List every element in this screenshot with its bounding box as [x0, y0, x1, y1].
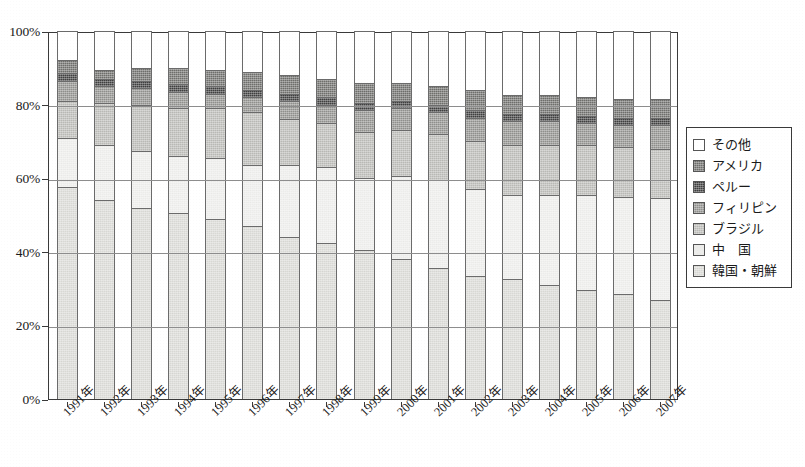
bar-segment-その他	[651, 31, 670, 99]
bar-segment-中 国	[577, 195, 596, 291]
bar-segment-アメリカ	[429, 86, 448, 104]
legend-item-label: その他	[712, 138, 751, 151]
y-axis-tick-label: 60%	[0, 172, 40, 186]
legend-item-ブラジル[interactable]: ブラジル	[693, 218, 786, 239]
bar-segment-ブラジル	[614, 147, 633, 197]
bar-segment-フィリピン	[317, 105, 336, 123]
legend-item-label: ブラジル	[712, 222, 764, 235]
y-axis-tick-label: 80%	[0, 99, 40, 113]
bar-2005年[interactable]	[576, 31, 597, 399]
y-axis-tick-label: 100%	[0, 25, 40, 39]
gridline	[49, 327, 677, 328]
bar-segment-ブラジル	[540, 145, 559, 195]
bar-segment-中 国	[95, 145, 114, 200]
legend-item-label: ペルー	[712, 180, 751, 193]
bar-segment-ペルー	[614, 118, 633, 125]
bar-1993年[interactable]	[131, 31, 152, 399]
legend-item-label: アメリカ	[712, 159, 763, 172]
bar-segment-韓国・朝鮮	[95, 200, 114, 399]
bar-segment-ペルー	[132, 81, 151, 88]
y-axis-tick-label: 40%	[0, 246, 40, 260]
bar-segment-その他	[280, 31, 299, 75]
legend-item-ペルー[interactable]: ペルー	[693, 176, 786, 197]
bar-segment-アメリカ	[95, 70, 114, 79]
bar-segment-フィリピン	[58, 81, 77, 101]
bar-segment-ペルー	[466, 110, 485, 117]
bar-segment-アメリカ	[243, 72, 262, 90]
bar-segment-ブラジル	[466, 141, 485, 189]
legend-swatch-icon	[693, 202, 705, 214]
bar-1995年[interactable]	[205, 31, 226, 399]
bar-2000年[interactable]	[391, 31, 412, 399]
bar-group	[49, 33, 677, 399]
bar-segment-ペルー	[206, 86, 225, 93]
bar-segment-韓国・朝鮮	[280, 237, 299, 399]
bar-segment-アメリカ	[132, 68, 151, 81]
bar-segment-その他	[243, 31, 262, 71]
bar-segment-中 国	[169, 156, 188, 213]
bar-segment-中 国	[317, 167, 336, 242]
bar-segment-ペルー	[392, 101, 411, 108]
bar-segment-韓国・朝鮮	[651, 300, 670, 399]
bar-segment-その他	[95, 31, 114, 70]
bar-segment-フィリピン	[466, 118, 485, 142]
bar-segment-フィリピン	[95, 86, 114, 103]
bar-segment-その他	[206, 31, 225, 70]
bar-1994年[interactable]	[168, 31, 189, 399]
bar-segment-中 国	[206, 158, 225, 219]
bar-1997年[interactable]	[279, 31, 300, 399]
legend-item-アメリカ[interactable]: アメリカ	[693, 155, 786, 176]
legend-item-韓国・朝鮮[interactable]: 韓国・朝鮮	[693, 260, 786, 281]
bar-segment-フィリピン	[355, 110, 374, 132]
bar-segment-アメリカ	[280, 75, 299, 93]
bar-1998年[interactable]	[316, 31, 337, 399]
gridline	[49, 180, 677, 181]
bar-2004年[interactable]	[539, 31, 560, 399]
legend-swatch-icon	[693, 139, 705, 151]
bar-1992年[interactable]	[94, 31, 115, 399]
legend-swatch-icon	[693, 244, 705, 256]
bar-segment-韓国・朝鮮	[317, 243, 336, 399]
bar-2002年[interactable]	[465, 31, 486, 399]
legend-item-中 国[interactable]: 中 国	[693, 239, 786, 260]
bar-segment-その他	[132, 31, 151, 68]
bar-segment-ブラジル	[429, 134, 448, 180]
bar-1991年[interactable]	[57, 31, 78, 399]
bar-2001年[interactable]	[428, 31, 449, 399]
bar-segment-ブラジル	[132, 105, 151, 151]
bar-segment-ブラジル	[355, 132, 374, 178]
chart-page: 0%20%40%60%80%100% 1991年1992年1993年1994年1…	[0, 0, 805, 467]
bar-segment-フィリピン	[243, 97, 262, 112]
bar-segment-アメリカ	[392, 83, 411, 101]
bar-1996年[interactable]	[242, 31, 263, 399]
bar-1999年[interactable]	[354, 31, 375, 399]
legend-item-フィリピン[interactable]: フィリピン	[693, 197, 786, 218]
bar-segment-韓国・朝鮮	[466, 276, 485, 399]
bar-segment-ペルー	[95, 79, 114, 86]
legend-swatch-icon	[693, 223, 705, 235]
bar-segment-フィリピン	[132, 88, 151, 105]
bar-2003年[interactable]	[502, 31, 523, 399]
bar-2007年[interactable]	[650, 31, 671, 399]
bar-segment-アメリカ	[614, 99, 633, 117]
bar-segment-その他	[355, 31, 374, 83]
bar-segment-ペルー	[651, 118, 670, 125]
bar-segment-その他	[466, 31, 485, 90]
bar-segment-中 国	[540, 195, 559, 285]
legend-item-その他[interactable]: その他	[693, 134, 786, 155]
bar-segment-中 国	[392, 176, 411, 259]
bar-segment-アメリカ	[540, 95, 559, 113]
bar-segment-その他	[169, 31, 188, 68]
legend-swatch-icon	[693, 160, 705, 172]
bar-segment-アメリカ	[355, 83, 374, 103]
bar-segment-中 国	[651, 198, 670, 299]
bar-segment-フィリピン	[429, 112, 448, 134]
bar-segment-中 国	[614, 197, 633, 295]
bar-2006年[interactable]	[613, 31, 634, 399]
bar-segment-ペルー	[577, 116, 596, 123]
bar-segment-その他	[429, 31, 448, 86]
bar-segment-フィリピン	[280, 101, 299, 119]
bar-segment-韓国・朝鮮	[577, 290, 596, 399]
legend: その他アメリカペルーフィリピンブラジル中 国韓国・朝鮮	[686, 127, 792, 288]
bar-segment-韓国・朝鮮	[540, 285, 559, 399]
